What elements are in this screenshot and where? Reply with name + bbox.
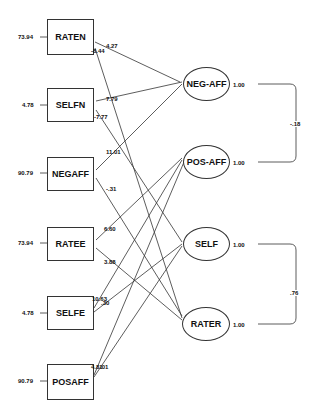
loading: 7.79 [106,96,118,102]
error-selfe: 4.78 [22,310,34,316]
observed-raten: RATEN [47,19,94,55]
variance-self: 1.00 [233,242,245,248]
observed-selfn: SELFN [47,88,94,122]
observed-ratee: RATEE [47,227,94,261]
observed-negaff: NEGAFF [47,157,94,191]
latent-neg-aff: NEG-AFF [183,67,230,101]
error-posaff: 90.79 [18,378,33,384]
variance-pos-aff: 1.00 [233,160,245,166]
covariance-neg-pos: -.18 [290,121,300,127]
loading: 11.01 [106,149,121,155]
path-lines [0,0,315,415]
latent-rater: RATER [182,307,230,341]
error-negaff: 90.79 [18,170,33,176]
loading: 4.27 [106,43,118,49]
loading: -8.44 [91,48,105,54]
observed-posaff: POSAFF [47,364,94,400]
latent-self: SELF [183,227,230,261]
loading: -7.77 [94,114,108,120]
loading: 3.88 [104,259,116,265]
error-raten: 73.94 [18,34,33,40]
observed-selfe: SELFE [47,296,94,330]
latent-pos-aff: POS-AFF [183,145,230,179]
covariance-self-rater: .76 [290,290,298,296]
error-ratee: 73.94 [18,240,33,246]
error-selfn: 4.78 [22,102,34,108]
loading: 6.60 [104,226,116,232]
loading: -.31 [106,186,116,192]
loading: .01 [100,364,108,370]
variance-neg-aff: 1.00 [233,82,245,88]
variance-rater: 1.00 [233,322,245,328]
loading: .30 [101,300,109,306]
